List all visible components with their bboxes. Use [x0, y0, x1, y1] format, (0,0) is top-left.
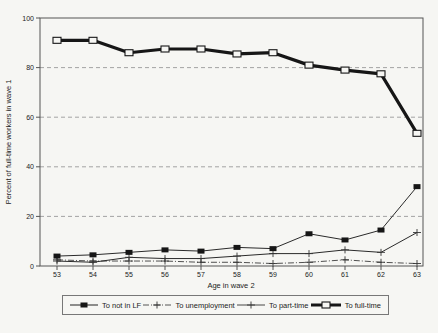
- x-tick-label: 59: [269, 271, 277, 278]
- tick-layer: 0204060801005354555657585960616263: [22, 15, 421, 279]
- legend-item-not-in-lf: To not in LF: [70, 300, 141, 310]
- filled-square-marker-icon: [70, 300, 98, 310]
- marker-filled-square-to-not-in-lf: [414, 184, 421, 189]
- marker-plus-to-unemployment: [341, 256, 349, 263]
- marker-plus-to-part-time: [269, 250, 277, 257]
- marker-open-square-to-full-time: [269, 50, 277, 56]
- chart-legend: To not in LF To unemployment To part-tim…: [62, 295, 389, 315]
- marker-filled-square-to-not-in-lf: [342, 237, 349, 242]
- y-tick-label: 100: [22, 15, 34, 22]
- x-tick-label: 61: [341, 271, 349, 278]
- y-axis-title: Percent of full-time workers in wave 1: [4, 80, 13, 205]
- marker-filled-square-to-not-in-lf: [306, 231, 313, 236]
- marker-open-square-to-full-time: [413, 130, 421, 136]
- marker-filled-square-to-not-in-lf: [162, 247, 169, 252]
- open-square-marker-icon: [311, 300, 341, 310]
- y-tick-label: 60: [26, 114, 34, 121]
- plus-solid-marker-icon: [237, 300, 265, 310]
- x-tick-label: 53: [53, 271, 61, 278]
- marker-filled-square-to-not-in-lf: [54, 254, 61, 259]
- legend-label: To part-time: [269, 301, 309, 310]
- marker-filled-square-to-not-in-lf: [378, 228, 385, 233]
- marker-filled-square-to-not-in-lf: [126, 250, 133, 255]
- x-tick-label: 55: [125, 271, 133, 278]
- plus-dash-marker-icon: [143, 300, 171, 310]
- marker-plus-to-unemployment: [305, 259, 313, 266]
- legend-item-full-time: To full-time: [311, 300, 381, 310]
- plot-frame: [40, 18, 423, 266]
- marker-plus-to-part-time: [89, 259, 97, 266]
- x-tick-label: 57: [197, 271, 205, 278]
- marker-open-square-to-full-time: [125, 50, 133, 56]
- y-tick-label: 0: [30, 263, 34, 270]
- marker-plus-to-part-time: [233, 253, 241, 260]
- legend-item-part-time: To part-time: [237, 300, 309, 310]
- marker-filled-square-to-not-in-lf: [270, 246, 277, 251]
- legend-label: To full-time: [345, 301, 381, 310]
- line-chart-figure: 0204060801005354555657585960616263 Perce…: [0, 0, 438, 333]
- x-axis-title: Age in wave 2: [207, 281, 254, 290]
- marker-plus-to-unemployment: [233, 259, 241, 266]
- marker-open-square-to-full-time: [377, 71, 385, 77]
- x-tick-label: 56: [161, 271, 169, 278]
- legend-item-unemployment: To unemployment: [143, 300, 234, 310]
- marker-plus-to-part-time: [197, 255, 205, 262]
- marker-filled-square-to-not-in-lf: [90, 252, 97, 257]
- marker-plus-to-part-time: [53, 258, 61, 265]
- marker-open-square-to-full-time: [341, 67, 349, 73]
- marker-filled-square-to-not-in-lf: [234, 245, 241, 250]
- x-tick-label: 58: [233, 271, 241, 278]
- plot-area: 0204060801005354555657585960616263 Perce…: [0, 0, 438, 292]
- marker-plus-to-part-time: [125, 254, 133, 261]
- y-tick-label: 40: [26, 163, 34, 170]
- y-tick-label: 80: [26, 64, 34, 71]
- marker-plus-to-part-time: [413, 229, 421, 236]
- marker-open-square-to-full-time: [305, 62, 313, 68]
- x-tick-label: 63: [413, 271, 421, 278]
- x-tick-label: 62: [377, 271, 385, 278]
- legend-label: To not in LF: [102, 301, 141, 310]
- marker-plus-to-part-time: [377, 249, 385, 256]
- gridline-layer: [40, 68, 423, 217]
- series-layer: [53, 37, 421, 267]
- marker-plus-to-unemployment: [377, 259, 385, 266]
- legend-label: To unemployment: [175, 301, 234, 310]
- marker-open-square-to-full-time: [53, 37, 61, 43]
- marker-open-square-to-full-time: [89, 37, 97, 43]
- marker-plus-to-part-time: [305, 250, 313, 257]
- x-tick-label: 60: [305, 271, 313, 278]
- x-tick-label: 54: [89, 271, 97, 278]
- y-tick-label: 20: [26, 213, 34, 220]
- marker-open-square-to-full-time: [161, 46, 169, 52]
- marker-open-square-to-full-time: [233, 51, 241, 57]
- marker-open-square-to-full-time: [197, 46, 205, 52]
- marker-plus-to-part-time: [341, 246, 349, 253]
- marker-filled-square-to-not-in-lf: [198, 249, 205, 254]
